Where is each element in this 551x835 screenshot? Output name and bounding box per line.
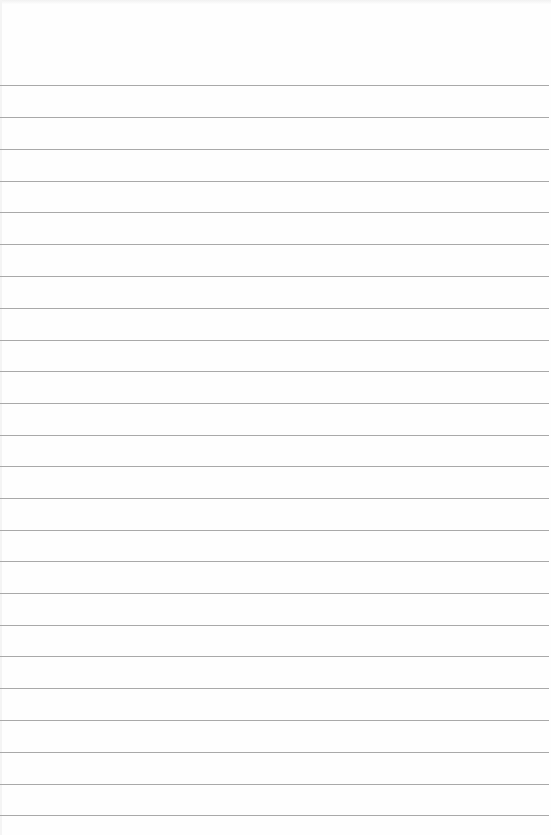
ruled-line (0, 308, 549, 309)
ruled-line (0, 435, 549, 436)
ruled-line (0, 85, 549, 86)
ruled-line (0, 593, 549, 594)
ruled-line (0, 815, 549, 816)
ruled-line (0, 276, 549, 277)
ruled-line (0, 498, 549, 499)
ruled-line (0, 688, 549, 689)
ruled-line (0, 656, 549, 657)
ruled-line (0, 181, 549, 182)
ruled-line (0, 371, 549, 372)
blank-ruled-page (0, 0, 551, 835)
ruled-line (0, 149, 549, 150)
ruled-line (0, 530, 549, 531)
ruled-line (0, 784, 549, 785)
ruled-line (0, 561, 549, 562)
ruled-line (0, 625, 549, 626)
ruled-line (0, 340, 549, 341)
page-left-edge (0, 0, 2, 835)
ruled-line (0, 466, 549, 467)
ruled-line (0, 752, 549, 753)
page-top-edge (0, 0, 551, 4)
ruled-line (0, 244, 549, 245)
ruled-line (0, 212, 549, 213)
ruled-line (0, 720, 549, 721)
ruled-line (0, 117, 549, 118)
ruled-line (0, 403, 549, 404)
